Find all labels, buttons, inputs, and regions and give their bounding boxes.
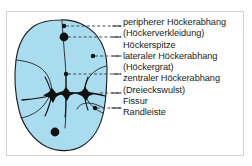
label-hoeckerspitze: Höckerspitze: [123, 40, 249, 51]
marker-lateraler-hoeckerabhang: [91, 54, 95, 58]
marker-randleiste: [93, 106, 97, 110]
label-fissur: Fissur: [123, 96, 249, 107]
label-hoeckergrat: (Höckergrat): [123, 62, 249, 73]
label-dreieckswulst: (Dreieckswulst): [123, 85, 249, 96]
marker-zentraler-hoeckerabhang: [64, 72, 68, 76]
label-peripherer-hoeckerabhang: peripherer Höckerabhang: [123, 17, 249, 28]
label-lateraler-hoeckerabhang: lateraler Höckerabhang: [123, 51, 249, 62]
label-randleiste: Randleiste: [123, 107, 249, 118]
figure-page: peripherer Höckerabhang (Höckerverkleidu…: [0, 0, 252, 166]
label-zentraler-hoeckerabhang: zentraler Höckerabhang: [123, 73, 249, 84]
marker-peripherer-hoeckerabhang: [62, 24, 66, 28]
leader-ticks: [112, 26, 121, 108]
marker-randleiste-lower: [51, 128, 60, 137]
label-list: peripherer Höckerabhang (Höckerverkleidu…: [123, 17, 249, 119]
label-hoeckerverkleidung: (Höckerverkleidung): [123, 28, 249, 39]
marker-hoeckerspitze: [60, 33, 69, 42]
